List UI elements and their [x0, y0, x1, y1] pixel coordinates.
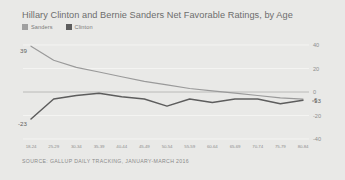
- svg-text:35-39: 35-39: [94, 144, 105, 149]
- svg-text:-13: -13: [312, 97, 322, 104]
- svg-text:55-59: 55-59: [184, 144, 195, 149]
- svg-text:70-74: 70-74: [252, 144, 263, 149]
- svg-text:30-34: 30-34: [71, 144, 82, 149]
- chart-card: Hillary Clinton and Bernie Sanders Net F…: [0, 0, 345, 180]
- svg-text:20: 20: [313, 66, 319, 72]
- svg-text:18-24: 18-24: [26, 144, 37, 149]
- svg-text:75-79: 75-79: [275, 144, 286, 149]
- x-axis-category-labels: 18-2425-2930-3435-3940-4445-4950-5455-59…: [26, 144, 309, 149]
- svg-text:-20: -20: [313, 113, 321, 119]
- svg-text:45-49: 45-49: [139, 144, 150, 149]
- plot-area: 40200-20-40 18-2425-2930-3435-3940-4445-…: [0, 0, 345, 180]
- svg-text:-40: -40: [313, 136, 321, 142]
- svg-text:50-54: 50-54: [162, 144, 173, 149]
- svg-text:40-44: 40-44: [116, 144, 127, 149]
- chart-svg: 40200-20-40 18-2425-2930-3435-3940-4445-…: [0, 0, 345, 180]
- svg-text:60-64: 60-64: [207, 144, 218, 149]
- svg-text:39: 39: [20, 47, 27, 54]
- y-axis-tick-labels: 40200-20-40: [313, 42, 321, 142]
- svg-text:-23: -23: [18, 120, 28, 127]
- svg-text:25-29: 25-29: [48, 144, 59, 149]
- svg-text:65-69: 65-69: [230, 144, 241, 149]
- svg-text:0: 0: [313, 89, 316, 95]
- svg-text:80-84: 80-84: [298, 144, 309, 149]
- series-lines: [31, 46, 303, 119]
- source-note: SOURCE: GALLUP DAILY TRACKING, JANUARY-M…: [22, 158, 189, 164]
- svg-text:40: 40: [313, 42, 319, 48]
